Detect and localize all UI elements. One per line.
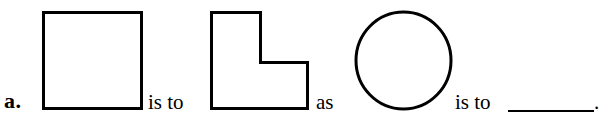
figure-square (41, 10, 144, 111)
connector-as: as (316, 89, 334, 115)
connector-is-to-second: is to (455, 89, 491, 115)
item-label: a. (4, 88, 22, 114)
figure-l-shape (209, 10, 311, 111)
connector-is-to-first: is to (148, 89, 184, 115)
figure-circle (353, 9, 454, 112)
terminal-period: . (594, 89, 599, 115)
answer-blank[interactable] (508, 110, 594, 112)
worksheet-problem: a. is to as is to . (0, 0, 614, 122)
